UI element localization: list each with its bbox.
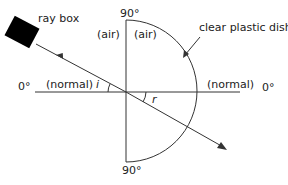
refraction-label: r (152, 94, 157, 105)
dish-arc (126, 20, 197, 162)
angle-r-arc (143, 92, 146, 102)
refracted-ray (126, 92, 225, 148)
angle-i-arc (108, 84, 110, 92)
air-left-label: (air) (97, 29, 120, 40)
incidence-label: i (96, 79, 99, 90)
dish-label: clear plastic dish (199, 22, 288, 33)
ray-box-label: ray box (38, 13, 79, 24)
refracted-arrow-icon (217, 142, 227, 150)
ray-box-icon (4, 16, 39, 49)
dish-pointer-line (185, 37, 200, 55)
angle-left-label: 0° (18, 81, 31, 92)
air-right-label: (air) (134, 29, 157, 40)
angle-bottom-label: 90° (122, 165, 142, 176)
angle-right-label: 0° (262, 82, 275, 93)
normal-left-label: (normal) (46, 79, 93, 90)
angle-top-label: 90° (120, 8, 140, 19)
normal-right-label: (normal) (207, 79, 254, 90)
